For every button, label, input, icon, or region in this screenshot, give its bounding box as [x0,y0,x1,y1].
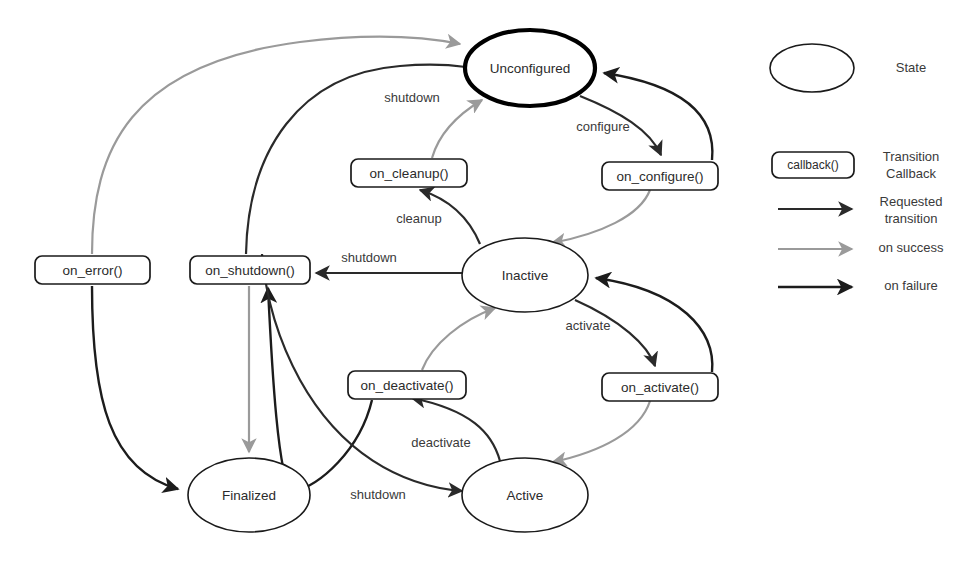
state-finalized-label: Finalized [222,488,276,503]
callback-on-configure-label: on_configure() [616,169,703,184]
legend-requested-label-line1: Requested [880,194,943,209]
legend-success-label: on success [878,240,944,255]
callback-on-shutdown[interactable]: on_shutdown() [190,256,310,284]
callback-on-activate-label: on_activate() [621,380,699,395]
legend-item-callback: callback() Transition Callback [772,149,939,181]
callbacks-layer: on_error() on_shutdown() on_cleanup() on… [35,159,718,401]
legend-item-state: State [770,44,926,92]
edge-ondeactivate-success-inactive [422,308,495,370]
edge-onerror-failure-finalized [92,286,178,489]
callback-on-deactivate-label: on_deactivate() [360,378,453,393]
legend-item-requested-transition: Requested transition [778,194,942,226]
legend-callback-label-line1: Transition [883,149,940,164]
callback-on-cleanup-label: on_cleanup() [370,166,449,181]
callback-on-error[interactable]: on_error() [35,256,150,284]
edge-onconfigure-failure-unconfigured [604,73,712,160]
state-unconfigured-label: Unconfigured [490,61,570,76]
edge-label-activate: activate [566,318,611,333]
edge-label-shutdown-top: shutdown [384,90,440,105]
state-finalized[interactable]: Finalized [188,458,310,532]
edge-onactivate-success-active [553,401,650,462]
callback-on-error-label: on_error() [62,263,122,278]
lifecycle-state-diagram: Unconfigured Inactive Active Finalized o… [0,0,968,567]
callback-on-cleanup[interactable]: on_cleanup() [351,159,467,187]
legend-item-on-failure: on failure [778,278,938,293]
state-unconfigured[interactable]: Unconfigured [465,30,595,106]
legend-state-ellipse-icon [770,44,854,92]
edge-label-shutdown-middle: shutdown [341,250,397,265]
edge-onactivate-failure-inactive [596,278,712,372]
edge-label-configure: configure [576,119,629,134]
edge-deactivate-request [412,398,500,461]
edge-label-cleanup: cleanup [396,211,442,226]
edge-label-deactivate: deactivate [411,435,470,450]
legend-callback-box-text: callback() [787,158,838,172]
state-inactive-label: Inactive [502,268,549,283]
legend: State callback() Transition Callback Req… [770,44,944,293]
legend-requested-label-line2: transition [885,211,938,226]
edge-oncleanup-success-unconfigured [432,100,482,158]
state-inactive[interactable]: Inactive [462,238,588,312]
legend-callback-label-line2: Callback [886,166,936,181]
edge-label-shutdown-bottom: shutdown [350,487,406,502]
legend-failure-label: on failure [884,278,937,293]
legend-state-label: State [896,60,926,75]
state-active-label: Active [507,488,544,503]
state-machine-canvas: Unconfigured Inactive Active Finalized o… [0,0,968,567]
callback-on-deactivate[interactable]: on_deactivate() [348,371,466,399]
callback-on-activate[interactable]: on_activate() [602,373,718,401]
callback-on-shutdown-label: on_shutdown() [205,263,294,278]
edge-onconfigure-success-inactive [552,190,650,243]
state-active[interactable]: Active [462,458,588,532]
legend-item-on-success: on success [778,240,944,255]
callback-on-configure[interactable]: on_configure() [602,162,718,190]
